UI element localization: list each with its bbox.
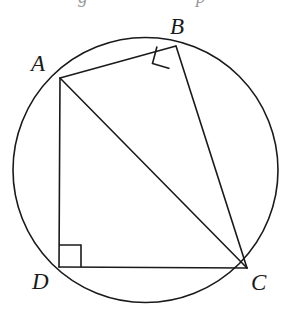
segment-bc <box>176 46 247 268</box>
segment-ab <box>60 46 176 78</box>
vertex-label-d: D <box>32 270 49 293</box>
vertex-label-c: C <box>251 271 266 294</box>
circumcircle <box>13 38 278 303</box>
segment-da <box>59 78 60 267</box>
right-angle-mark-at-d <box>59 245 81 267</box>
geometry-figure: g p A B C D <box>0 0 298 317</box>
vertex-label-a: A <box>31 52 45 75</box>
segment-ac-diagonal <box>60 78 247 268</box>
vertex-label-b: B <box>170 15 184 38</box>
segment-cd <box>59 267 247 268</box>
